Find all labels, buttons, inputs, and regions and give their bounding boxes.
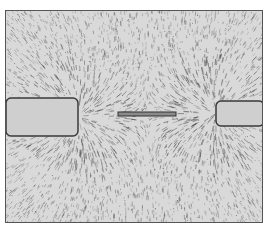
field-lines-graphic [6, 11, 263, 223]
iron-filings-photo: Iron filings photograph showing magnetic… [5, 10, 263, 223]
